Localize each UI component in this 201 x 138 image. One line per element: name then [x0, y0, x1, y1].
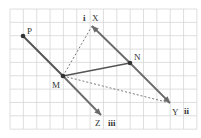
roman-label-i: i	[83, 13, 86, 23]
label-p: P	[27, 26, 32, 36]
label-n: N	[134, 52, 141, 62]
label-y: Y	[172, 107, 179, 117]
label-x: X	[92, 13, 99, 23]
segment-m-to-n	[63, 63, 130, 76]
dashed-line-m-to-x	[63, 26, 92, 76]
label-z: Z	[95, 118, 101, 128]
point-p-dot	[21, 34, 26, 39]
point-n-dot	[128, 61, 133, 66]
grid-background	[10, 9, 197, 129]
roman-label-ii: ii	[184, 106, 190, 116]
label-m: M	[52, 80, 60, 90]
geometry-diagram: P M N X Y Z i ii iii	[0, 0, 201, 138]
point-m-dot	[61, 74, 66, 79]
vector-n-to-x	[92, 26, 130, 63]
vector-m-to-z	[63, 76, 101, 115]
segment-p-to-m	[23, 36, 63, 76]
vector-n-to-y	[130, 63, 170, 103]
roman-label-iii: iii	[108, 118, 116, 128]
